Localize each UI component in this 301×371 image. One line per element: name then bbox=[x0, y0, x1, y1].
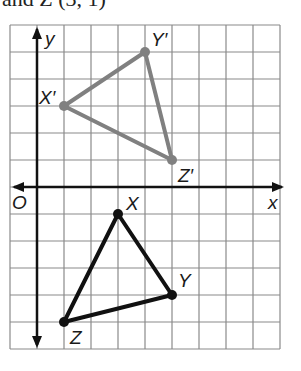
y-axis-arrow-down-icon bbox=[32, 336, 42, 348]
vertex-x-prime bbox=[59, 101, 69, 111]
vertex-label: Z′ bbox=[177, 165, 195, 186]
origin-label: O bbox=[12, 192, 27, 213]
x-axis-arrow-right-icon bbox=[272, 182, 284, 192]
vertex-y-prime bbox=[140, 47, 150, 57]
vertex-label: Z bbox=[69, 327, 83, 348]
vertex-y bbox=[167, 290, 177, 300]
vertex-x bbox=[113, 209, 123, 219]
vertex-label: X bbox=[125, 193, 140, 214]
vertex-z-prime bbox=[167, 155, 177, 165]
x-axis-label: x bbox=[267, 192, 279, 213]
coordinate-plane: yxOX′Y′Z′XYZ bbox=[0, 0, 301, 371]
x-axis-arrow-left-icon bbox=[12, 182, 24, 192]
vertex-label: Y′ bbox=[151, 29, 169, 50]
vertex-label: X′ bbox=[38, 87, 57, 108]
vertex-z bbox=[59, 317, 69, 327]
y-axis-label: y bbox=[43, 28, 56, 49]
y-axis-arrow-up-icon bbox=[32, 27, 42, 39]
vertex-label: Y bbox=[178, 270, 192, 291]
